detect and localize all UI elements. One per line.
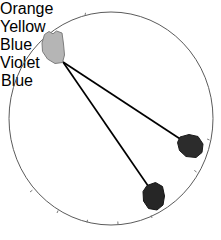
line-to-violet-blue — [63, 62, 149, 187]
figure-canvas: Orange Yellow Blue Violet Blue — [0, 0, 221, 240]
sample-patch-orange-yellow — [42, 31, 65, 64]
tick-mark — [30, 190, 32, 192]
tick-mark — [87, 220, 88, 223]
tick-mark — [85, 13, 86, 16]
sample-patch-blue — [178, 135, 204, 158]
tick-mark — [57, 210, 58, 213]
chromaticity-diagram — [0, 0, 221, 240]
tick-mark — [194, 170, 196, 172]
line-to-blue — [63, 62, 181, 140]
tick-mark — [207, 139, 209, 140]
sample-patch-violet-blue — [143, 183, 165, 211]
spectrum-locus-circle — [9, 12, 213, 225]
